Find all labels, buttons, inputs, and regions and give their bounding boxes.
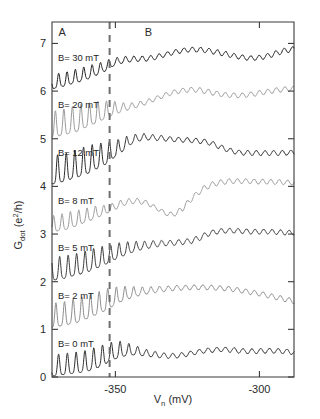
region-b-label: B [145, 26, 152, 38]
y-tick-label-3: 3 [40, 228, 46, 240]
x-axis-title-unit: (mV) [165, 393, 192, 405]
y-axis-title-unit-open: (e [12, 218, 24, 231]
series-label-5mT: B= 5 mT [58, 242, 94, 253]
y-tick-label-4: 4 [40, 180, 46, 192]
series-label-2mT: B= 2 mT [58, 290, 94, 301]
chart-canvas: 01234567-350-300 B= 0 mTB= 2 mTB= 5 mTB=… [0, 0, 320, 419]
series-label-12mT: B= 12 mT [58, 147, 99, 158]
y-axis-title: Gdot (e2/h) [11, 200, 27, 249]
region-annotations-group: AB [58, 26, 152, 38]
series-label-8mT: B= 8 mT [58, 195, 94, 206]
y-tick-label-1: 1 [40, 323, 46, 335]
region-a-label: A [58, 26, 66, 38]
y-tick-label-2: 2 [40, 276, 46, 288]
x-tick-label--350: -350 [104, 383, 126, 395]
x-tick-label--300: -300 [248, 383, 270, 395]
y-tick-label-6: 6 [40, 85, 46, 97]
series-label-0mT: B= 0 mT [58, 338, 94, 349]
trace-12mT [52, 134, 294, 185]
x-axis-title: Vn (mV) [154, 393, 192, 408]
y-tick-label-0: 0 [40, 371, 46, 383]
y-tick-label-5: 5 [40, 133, 46, 145]
y-axis-title-main: G [12, 241, 24, 250]
trace-5mT [52, 228, 294, 280]
trace-series-group [52, 47, 294, 376]
svg-text:Gdot (e2/h): Gdot (e2/h) [11, 200, 27, 249]
svg-text:Vn (mV): Vn (mV) [154, 393, 192, 408]
y-tick-label-7: 7 [40, 37, 46, 49]
conductance-chart-figure: 01234567-350-300 B= 0 mTB= 2 mTB= 5 mTB=… [0, 0, 320, 419]
series-label-20mT: B= 20 mT [58, 99, 99, 110]
series-label-30mT: B= 30 mT [58, 52, 99, 63]
y-axis-title-unit-close: /h) [12, 200, 24, 213]
trace-20mT [52, 86, 294, 137]
